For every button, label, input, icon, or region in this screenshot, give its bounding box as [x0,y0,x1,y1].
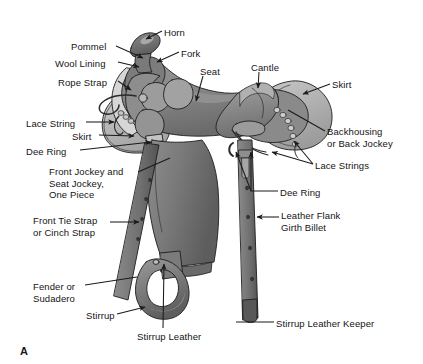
label-seat: Seat [200,66,220,78]
jockey-round-b [164,79,194,109]
label-leather-flank: Leather Flank Girth Billet [281,210,340,233]
leader-dee-ring-right [251,152,278,191]
horn-shape [130,33,160,58]
label-skirt-left: Skirt [72,131,92,143]
label-dee-ring-right: Dee Ring [280,187,320,199]
billet-tongue [242,158,249,178]
dee-ring-right-shape [229,143,233,156]
label-skirt-right: Skirt [332,79,352,91]
label-lace-strings: Lace Strings [315,160,369,172]
label-rope-strap: Rope Strap [58,77,107,89]
label-fork: Fork [181,48,200,60]
label-horn: Horn [164,27,185,39]
leader-stirrup [117,307,145,314]
label-cantle: Cantle [251,62,279,74]
horn-neck-shape [135,54,152,73]
label-stirrup-leather: Stirrup Leather [137,331,201,343]
stirrup-leather-keeper-shape [243,299,257,323]
label-lace-string: Lace String [26,118,75,130]
label-front-tie-strap: Front Tie Strap or Cinch Strap [33,215,97,238]
label-dee-ring-left: Dee Ring [26,146,66,158]
fender-sudadero-shape [147,140,218,268]
billet-keeper-loop [239,150,252,158]
stirrup-bolt [153,260,159,265]
leader-lace-strings-a [272,152,313,164]
label-stirrup-leather-keeper: Stirrup Leather Keeper [276,318,374,330]
leader-fork [157,52,179,62]
label-wool-lining: Wool Lining [55,58,106,70]
label-stirrup: Stirrup [86,310,115,322]
label-fender-sudadero: Fender or Sudadero [33,281,75,304]
saddle-diagram-figure: Horn Pommel Fork Wool Lining Seat Cantle… [0,0,423,364]
label-front-seat-jockey: Front Jockey and Seat Jockey, One Piece [49,166,123,201]
label-backhousing: Backhousing or Back Jockey [327,126,393,149]
concho-front [139,94,147,102]
label-pommel: Pommel [71,41,106,53]
panel-letter: A [20,345,28,357]
